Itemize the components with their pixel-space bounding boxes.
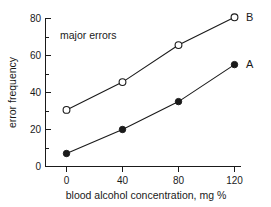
x-tick-label-80: 80 [173,175,185,186]
y-axis-title: error frequency [6,56,18,128]
chart-figure: 80 60 40 20 0 0 40 80 120 blood alcohol … [0,0,271,207]
y-tick-label-40: 40 [30,87,42,98]
y-tick-label-80: 80 [30,13,42,24]
series-a-line [67,65,235,154]
y-tick-label-60: 60 [30,50,42,61]
x-tick-label-40: 40 [117,175,129,186]
x-axis-major-ticks [67,167,235,173]
series-a-markers [63,61,237,156]
chart-plot-area: 80 60 40 20 0 0 40 80 120 blood alcohol … [0,0,271,207]
y-axis-major-ticks [46,19,52,167]
x-tick-label-0: 0 [64,175,70,186]
x-tick-label-120: 120 [226,175,243,186]
series-label-b: B [246,11,253,23]
x-axis-title: blood alcohol concentration, mg % [66,189,227,201]
y-tick-label-0: 0 [35,161,41,172]
series-label-a: A [246,58,254,70]
y-tick-label-20: 20 [30,124,42,135]
chart-annotation: major errors [60,29,117,41]
